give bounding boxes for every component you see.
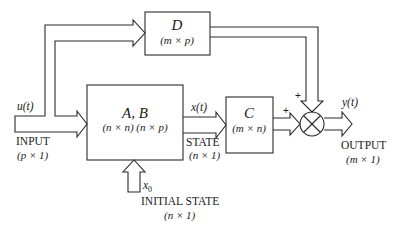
initial-state-arrow: [123, 160, 145, 192]
summer-sign-c: +: [283, 106, 289, 116]
block-c-name: C: [244, 106, 254, 121]
d-to-sum-arrow: [210, 27, 323, 112]
input-dims: (p × 1): [17, 150, 48, 161]
output-dims: (m × 1): [346, 154, 380, 165]
block-ab-dims: (n × n) (n × p): [102, 122, 167, 133]
block-c-dims: (m × n): [232, 123, 266, 134]
input-label: INPUT: [16, 136, 50, 148]
summer-sign-d: +: [295, 91, 301, 101]
state-dims: (n × 1): [189, 150, 220, 161]
input-signal-symbol: u(t): [17, 101, 34, 113]
state-signal-symbol: x(t): [191, 102, 207, 114]
block-d-name: D: [172, 18, 183, 33]
initial-state-label: INITIAL STATE: [141, 196, 219, 208]
initial-state-symbol-sub: 0: [148, 185, 152, 194]
c-to-sum-arrow: [273, 113, 300, 135]
state-label: STATE: [186, 137, 220, 149]
output-signal-symbol: y(t): [342, 97, 358, 109]
state-space-diagram: D (m × p) A, B (n × n) (n × p) C (m × n)…: [0, 0, 400, 231]
state-arrow: [183, 112, 226, 138]
output-label: OUTPUT: [341, 140, 386, 152]
initial-state-symbol: x0: [143, 180, 152, 194]
block-d-dims: (m × p): [160, 35, 194, 46]
block-ab-name: A, B: [122, 106, 148, 121]
initial-state-dims: (n × 1): [164, 210, 195, 221]
output-arrow: [324, 112, 352, 136]
